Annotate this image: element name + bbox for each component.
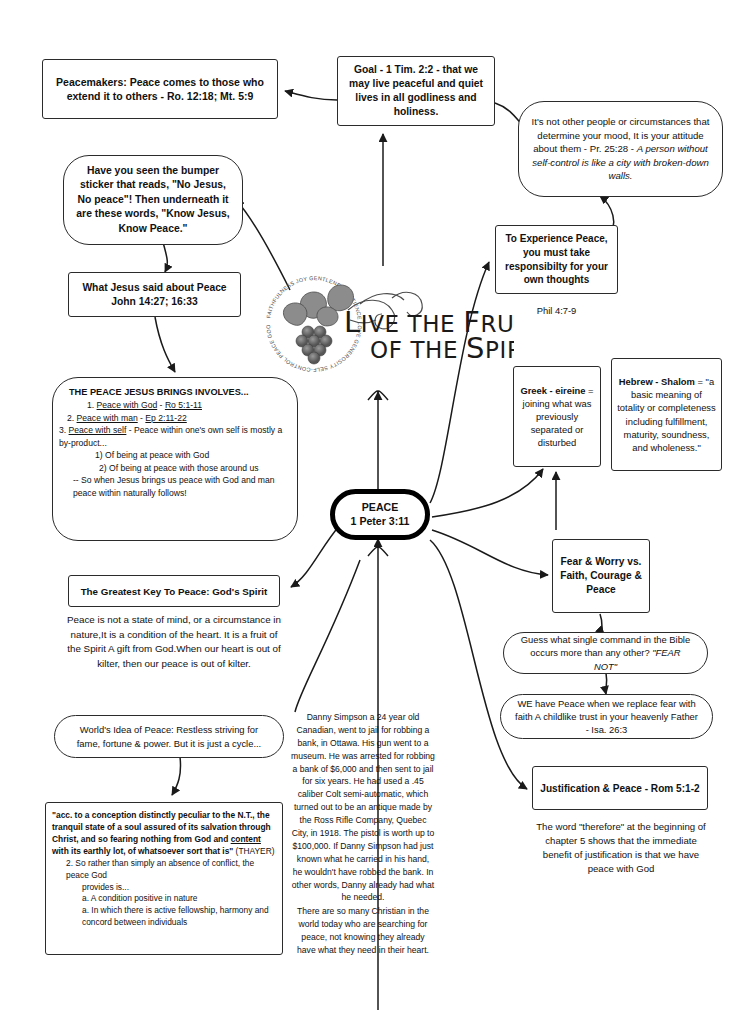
link-center-to-greek: [432, 469, 543, 517]
text-peace-not-state: Peace is not a state of mind, or a circu…: [66, 613, 282, 672]
worlds-idea-text: World's Idea of Peace: Restless striving…: [71, 723, 267, 749]
link-fork-left: [368, 391, 378, 400]
involves-item-1: 1. Peace with God - Ro 5:1-11: [59, 399, 291, 411]
node-peacemakers[interactable]: Peacemakers: Peace comes to those who ex…: [42, 59, 278, 119]
fruit-of-the-spirit-logo: FAITHFULNESS JOY GENTLENESS PATIENCE LOV…: [252, 262, 514, 374]
involves-item-2: 2. Peace with man - Ep 2:11-22: [59, 412, 291, 424]
node-peacemakers-text: Peacemakers: Peace comes to those who ex…: [51, 75, 269, 103]
node-what-jesus-line2: John 14:27; 16:33: [111, 296, 197, 307]
link-center-to-greatestkey: [291, 525, 340, 587]
involves-heading: THE PEACE JESUS BRINGS INVOLVES...: [59, 386, 291, 399]
thayer-line-2: 2. So rather than simply an absence of c…: [52, 858, 276, 882]
hebrew-term: Hebrew - Shalom: [619, 376, 695, 387]
node-worlds-idea[interactable]: World's Idea of Peace: Restless striving…: [54, 715, 284, 758]
node-justification-peace[interactable]: Justification & Peace - Rom 5:1-2: [532, 766, 708, 810]
hebrew-definition: = "a basic meaning of totality or comple…: [617, 376, 715, 453]
danny-story-text: Danny Simpson a 24 year old Canadian, we…: [291, 712, 435, 902]
text-danny-simpson-story: Danny Simpson a 24 year old Canadian, we…: [291, 711, 435, 904]
justification-text: Justification & Peace - Rom 5:1-2: [538, 783, 702, 794]
link-center-to-fear: [432, 530, 548, 575]
mindmap-canvas: Peacemakers: Peace comes to those who ex…: [0, 0, 738, 1029]
involves-sub-2: 2) Of being at peace with those around u…: [59, 462, 291, 474]
text-therefore-explanation: The word "therefore" at the beginning of…: [535, 820, 707, 876]
text-danny-application: There are so many Christian in the world…: [291, 905, 435, 957]
we-have-peace-text: WE have Peace when we replace fear with …: [515, 697, 698, 736]
involves-item-3: 3. Peace with self - Peace within one's …: [59, 424, 291, 449]
greek-term: Greek - eireine: [520, 385, 585, 396]
center-label: PEACE: [362, 501, 399, 513]
link-center-to-worldsidea: [295, 560, 360, 712]
node-bumper-text: Have you seen the bumper sticker that re…: [74, 164, 232, 237]
svg-text:OF THE SPIRIT: OF THE SPIRIT: [370, 331, 514, 365]
node-attitude-bubble[interactable]: It's not other people or circumstances t…: [518, 101, 723, 197]
node-greatest-key[interactable]: The Greatest Key To Peace: God's Spirit: [68, 575, 280, 607]
node-hebrew-shalom[interactable]: Hebrew - Shalom = "a basic meaning of to…: [611, 358, 722, 471]
node-goal[interactable]: Goal - 1 Tim. 2:2 - that we may live pea…: [337, 56, 495, 126]
link-fork-down-right: [378, 547, 388, 556]
therefore-text: The word "therefore" at the beginning of…: [536, 821, 705, 874]
node-bumper-sticker[interactable]: Have you seen the bumper sticker that re…: [63, 155, 243, 245]
node-what-jesus-line1: What Jesus said about Peace: [82, 282, 226, 293]
node-what-jesus-said[interactable]: What Jesus said about Peace John 14:27; …: [68, 272, 241, 317]
node-peace-involves[interactable]: THE PEACE JESUS BRINGS INVOLVES... 1. Pe…: [52, 377, 298, 541]
thayer-quote: "acc. to a conception distinctly peculia…: [52, 810, 276, 858]
node-thayer-definition[interactable]: "acc. to a conception distinctly peculia…: [45, 802, 283, 955]
logo-grapes: [296, 326, 332, 364]
greatest-key-text: The Greatest Key To Peace: God's Spirit: [73, 586, 275, 597]
link-worldsidea-to-thayer: [172, 757, 181, 795]
thayer-line-4: a. A condition positive in nature: [52, 893, 276, 905]
logo-leaves: [283, 285, 353, 326]
node-greek-eireine[interactable]: Greek - eireine = joining what was previ…: [513, 366, 601, 467]
node-guess-command[interactable]: Guess what single command in the Bible o…: [503, 632, 708, 674]
peace-not-state-text: Peace is not a state of mind, or a circu…: [67, 614, 281, 669]
link-fork-down-left: [368, 547, 378, 556]
node-fear-worry[interactable]: Fear & Worry vs. Faith, Courage & Peace: [552, 539, 650, 613]
involves-sub-3: -- So when Jesus brings us peace with Go…: [59, 474, 291, 499]
label-phil-text: Phil 4:7-9: [537, 305, 577, 316]
link-goal-to-peacemakers: [285, 91, 337, 100]
svg-text:LIVE THE FRUIT: LIVE THE FRUIT: [344, 305, 514, 339]
logo-title: LIVE THE FRUIT OF THE SPIRIT: [344, 305, 514, 365]
node-center-peace[interactable]: PEACE 1 Peter 3:11: [330, 489, 430, 540]
node-experience-text: To Experience Peace, you must take respo…: [503, 232, 610, 287]
center-reference: 1 Peter 3:11: [351, 515, 410, 527]
node-we-have-peace[interactable]: WE have Peace when we replace fear with …: [500, 694, 713, 739]
link-guess-to-wehave: [606, 673, 607, 694]
involves-sub-1: 1) Of being at peace with God: [59, 449, 291, 461]
link-fork-right: [378, 391, 388, 400]
node-goal-ref: Goal - 1 Tim. 2:2: [354, 64, 433, 75]
link-fear-to-guess: [600, 614, 604, 634]
node-fear-worry-text: Fear & Worry vs. Faith, Courage & Peace: [558, 555, 644, 598]
thayer-line-5: a. In which there is active fellowship, …: [52, 905, 276, 929]
link-whatjesus-to-involves: [155, 317, 175, 372]
thayer-line-3: provides is...: [52, 882, 276, 894]
danny-application-text: There are so many Christian in the world…: [297, 906, 429, 955]
